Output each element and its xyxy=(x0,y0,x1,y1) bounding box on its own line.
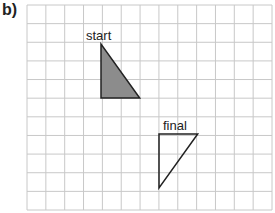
label-final: final xyxy=(163,118,187,133)
grid-diagram: startfinal xyxy=(0,0,275,213)
label-start: start xyxy=(86,28,112,43)
triangle-start xyxy=(101,44,140,98)
triangle-final xyxy=(159,134,198,188)
